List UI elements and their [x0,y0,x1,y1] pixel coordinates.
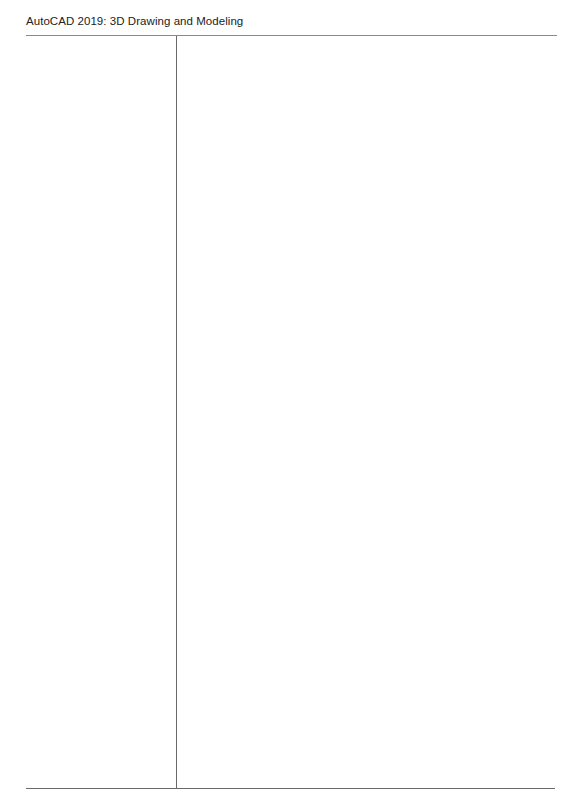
right-notes-column [177,36,555,788]
page-header-title: AutoCAD 2019: 3D Drawing and Modeling [26,15,243,27]
footer-rule [26,788,555,789]
left-notes-column [26,36,176,788]
